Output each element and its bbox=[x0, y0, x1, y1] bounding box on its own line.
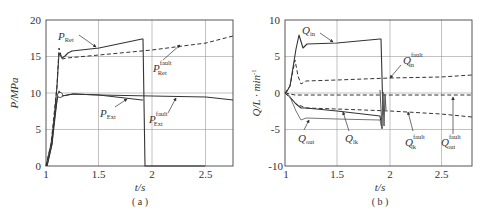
series-q-out-fault bbox=[285, 93, 472, 95]
x-tick: 1.5 bbox=[92, 168, 106, 180]
x-ticks-b: 1 1.5 2 2.5 bbox=[283, 168, 449, 180]
series-b bbox=[285, 35, 472, 129]
y-tick: 15 bbox=[30, 50, 42, 62]
label-q-lk: Qlk bbox=[345, 132, 359, 145]
label-p-ret: PRet bbox=[57, 30, 74, 43]
chart-a: 0 5 10 15 20 1 1.5 2 2.5 P/MPa t/s ( a ) bbox=[8, 14, 233, 208]
label-q-lk-fault: Qfaultlk bbox=[405, 133, 425, 150]
y-ticks-a: 0 5 10 15 20 bbox=[30, 14, 42, 172]
annotations-b: Qin Qfaultin Qout Qlk Qfaultlk Qfaultout bbox=[298, 24, 461, 150]
series-p-ret-fault bbox=[46, 36, 233, 166]
label-p-ext: PExt bbox=[99, 107, 116, 120]
y-tick: 10 bbox=[269, 14, 281, 26]
y-tick: 10 bbox=[30, 87, 42, 99]
x-tick: 1.5 bbox=[330, 168, 344, 180]
x-axis-label-b: t/s bbox=[375, 181, 385, 193]
marker-circle bbox=[57, 92, 62, 97]
caption-a: ( a ) bbox=[132, 196, 148, 208]
x-tick: 2 bbox=[149, 168, 155, 180]
y-tick: 20 bbox=[30, 14, 42, 26]
y-tick: 5 bbox=[36, 123, 42, 135]
x-ticks-a: 1 1.5 2 2.5 bbox=[43, 168, 213, 180]
chart-b: -10 -5 0 5 10 1 1.5 2 2.5 Q/L · min-1 t/… bbox=[250, 14, 472, 208]
series-q-lk bbox=[286, 93, 382, 129]
y-tick: -10 bbox=[268, 160, 283, 172]
x-tick: 2 bbox=[387, 168, 393, 180]
annotations-a: PRet PfaultRet PExt PfaultExt bbox=[57, 30, 180, 127]
figure: 0 5 10 15 20 1 1.5 2 2.5 P/MPa t/s ( a ) bbox=[0, 0, 485, 221]
grid-a bbox=[46, 20, 233, 166]
series-a bbox=[46, 36, 233, 166]
series-q-in bbox=[286, 35, 383, 115]
y-tick: -5 bbox=[271, 123, 281, 135]
x-axis-label-a: t/s bbox=[135, 181, 145, 193]
x-tick: 2.5 bbox=[199, 168, 213, 180]
label-q-out-fault: Qfaultout bbox=[441, 133, 461, 150]
series-q-in-fault bbox=[285, 60, 472, 93]
y-tick: 5 bbox=[275, 50, 281, 62]
label-q-in: Qin bbox=[302, 24, 316, 37]
x-tick: 1 bbox=[43, 168, 49, 180]
label-p-ret-fault: PfaultRet bbox=[152, 59, 172, 76]
caption-b: ( b ) bbox=[372, 196, 389, 208]
y-ticks-b: -10 -5 0 5 10 bbox=[268, 14, 283, 172]
label-p-ext-fault: PfaultExt bbox=[148, 110, 168, 127]
label-q-in-fault: Qfaultin bbox=[403, 51, 423, 68]
y-axis-label-a: P/MPa bbox=[8, 77, 20, 110]
series-p-ext bbox=[47, 91, 143, 166]
series-q-lk-fault bbox=[285, 93, 472, 117]
x-tick: 1 bbox=[283, 168, 289, 180]
y-tick: 0 bbox=[275, 87, 281, 99]
y-tick: 0 bbox=[36, 160, 42, 172]
x-tick: 2.5 bbox=[435, 168, 449, 180]
y-axis-label-b: Q/L · min-1 bbox=[250, 69, 262, 116]
label-q-out: Qout bbox=[298, 132, 314, 145]
